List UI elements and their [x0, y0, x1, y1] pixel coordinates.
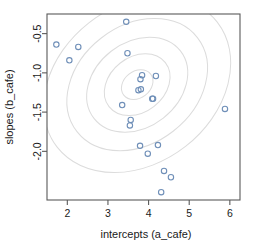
- data-point: [153, 73, 158, 78]
- x-tick-label-6: 6: [227, 207, 233, 219]
- contour-ellipse-4: [41, 0, 234, 178]
- y-tick-label--1.5: -1.5: [31, 103, 43, 121]
- data-point: [76, 44, 81, 49]
- contour-ellipse-2: [92, 41, 182, 128]
- x-axis-title: intercepts (a_cafe): [100, 228, 191, 240]
- scatter-plot-figure: 23456-0.5-1.0-1.5-2.0 intercepts (a_cafe…: [0, 0, 253, 246]
- data-points-layer: [54, 19, 228, 195]
- contour-ellipse-3: [68, 17, 207, 151]
- y-tick-label--2.0: -2.0: [31, 142, 43, 160]
- contour-ellipse-1: [116, 64, 159, 106]
- data-point: [119, 102, 124, 107]
- contour-ellipse-5: [9, 0, 253, 209]
- x-tick-label-3: 3: [105, 207, 111, 219]
- data-point: [67, 58, 72, 63]
- y-tick-label--0.5: -0.5: [31, 24, 43, 42]
- y-axis-title: slopes (b_cafe): [3, 69, 15, 144]
- x-tick-label-2: 2: [64, 207, 70, 219]
- data-point: [155, 142, 160, 147]
- data-point: [127, 123, 132, 128]
- data-point: [125, 51, 130, 56]
- data-point: [222, 106, 227, 111]
- data-point: [168, 175, 173, 180]
- y-tick-label--1.0: -1.0: [31, 64, 43, 82]
- plot-canvas: 23456-0.5-1.0-1.5-2.0 intercepts (a_cafe…: [0, 0, 253, 246]
- plot-box: [47, 14, 240, 200]
- x-tick-label-5: 5: [186, 207, 192, 219]
- x-tick-label-4: 4: [146, 207, 152, 219]
- contour-layer: [9, 0, 253, 209]
- data-point: [54, 42, 59, 47]
- data-point: [158, 189, 163, 194]
- data-point: [161, 168, 166, 173]
- data-point: [128, 117, 133, 122]
- plot-frame: [47, 14, 240, 200]
- data-point: [145, 151, 150, 156]
